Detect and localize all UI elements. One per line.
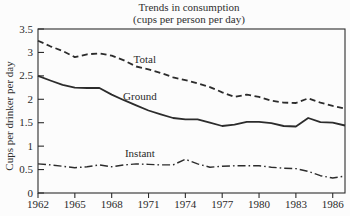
y-tick-label: 3 <box>28 46 34 58</box>
x-tick-label: 1962 <box>27 198 49 210</box>
y-tick-label: 0.5 <box>19 163 33 175</box>
ground-line <box>38 76 345 127</box>
y-tick-label: 0 <box>28 187 34 199</box>
y-tick-label: 3.5 <box>19 23 33 35</box>
y-tick-label: 2.5 <box>19 69 33 81</box>
coffee-consumption-chart: Trends in consumption (cups per person p… <box>0 0 350 216</box>
total-line <box>38 41 345 109</box>
x-tick-label: 1971 <box>138 198 160 210</box>
x-tick-label: 1968 <box>101 198 124 210</box>
plot-frame <box>38 29 345 193</box>
instant-series-label: Instant <box>125 147 155 159</box>
plot-area: 00.511.522.533.5196219651968197119741977… <box>0 0 350 216</box>
ground-series-label: Ground <box>123 90 157 102</box>
total-series-label: Total <box>134 53 156 65</box>
y-tick-label: 1 <box>28 140 34 152</box>
y-tick-label: 2 <box>28 93 34 105</box>
x-tick-label: 1977 <box>211 198 234 210</box>
x-tick-label: 1983 <box>285 198 308 210</box>
y-tick-label: 1.5 <box>19 116 33 128</box>
x-tick-label: 1965 <box>64 198 87 210</box>
x-tick-label: 1974 <box>174 198 197 210</box>
instant-line <box>38 159 345 178</box>
x-tick-label: 1980 <box>248 198 271 210</box>
x-tick-label: 1986 <box>322 198 345 210</box>
